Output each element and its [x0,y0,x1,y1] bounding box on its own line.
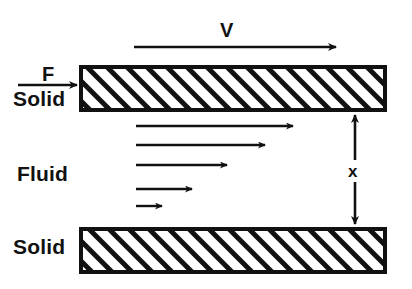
top-plate-label: Solid [13,88,65,109]
top-plate-body [81,67,385,110]
force-label: F [42,64,54,84]
bottom-plate-label: Solid [13,236,65,257]
top-plate [81,67,385,110]
gap-label: x [348,163,358,180]
couette-flow-diagram: V F Solid Fluid x Solid [0,0,412,289]
velocity-profile-arrows [136,126,293,206]
bottom-plate-body [81,229,385,272]
fluid-label: Fluid [17,163,68,184]
bottom-plate [81,229,385,272]
velocity-label: V [220,20,234,40]
